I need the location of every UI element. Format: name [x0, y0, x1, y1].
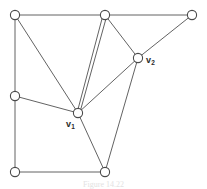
- vertex-top-right[interactable]: [187, 10, 196, 19]
- vertex-left-middle[interactable]: [10, 91, 19, 100]
- edge-topright-v2: [138, 15, 192, 58]
- vertex-bottom-left[interactable]: [10, 167, 19, 176]
- vertex-label-v1-subscript: 1: [71, 123, 75, 130]
- vertex-bottom-middle[interactable]: [100, 167, 109, 176]
- vertex-label-v1: v1: [66, 120, 75, 129]
- vertex-v1[interactable]: [73, 108, 82, 117]
- edge-topmid-v1-right: [80, 15, 107, 112]
- vertex-top-left[interactable]: [10, 10, 19, 19]
- figure-container: v1 v2 Figure 14.22: [0, 0, 207, 189]
- vertex-top-middle[interactable]: [100, 10, 109, 19]
- edge-group: [15, 15, 192, 172]
- vertex-label-v2-subscript: 2: [151, 59, 155, 66]
- edge-v2-bottommid: [105, 58, 138, 172]
- vertex-group: [10, 10, 196, 176]
- edge-v1-bottommid: [78, 113, 105, 172]
- vertex-v2[interactable]: [133, 53, 142, 62]
- vertex-label-v2: v2: [146, 56, 155, 65]
- figure-caption: Figure 14.22: [0, 180, 207, 189]
- graph-canvas: [0, 0, 207, 189]
- edge-topmid-v1-left: [77, 15, 103, 113]
- edge-topmid-v2: [105, 15, 138, 58]
